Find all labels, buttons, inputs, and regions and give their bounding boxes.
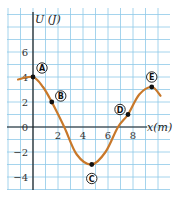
y-tick-label: 0 xyxy=(22,122,28,133)
tick-labels: 24686420−2−4 xyxy=(13,47,136,183)
y-tick-label: −4 xyxy=(13,172,28,183)
x-tick-label: 2 xyxy=(55,130,61,141)
point-b xyxy=(49,100,54,105)
grid xyxy=(7,8,170,190)
x-tick-label: 6 xyxy=(105,130,111,141)
y-tick-label: 6 xyxy=(22,47,28,58)
point-label-e: E xyxy=(149,73,154,82)
y-tick-label: 2 xyxy=(22,97,28,108)
point-label-d: D xyxy=(117,106,124,115)
point-label-a: A xyxy=(39,64,46,73)
axes xyxy=(7,12,147,190)
point-a xyxy=(31,75,36,80)
point-label-c: C xyxy=(89,175,95,184)
x-axis-label: x(m) xyxy=(147,121,172,134)
point-e xyxy=(149,85,154,90)
y-axis-label: U (J) xyxy=(35,13,61,26)
x-tick-label: 8 xyxy=(130,130,136,141)
y-tick-label: −2 xyxy=(13,147,28,158)
potential-energy-chart: 24686420−2−4 ABCDE U (J) x(m) xyxy=(0,0,177,198)
point-c xyxy=(89,162,94,167)
point-label-b: B xyxy=(58,92,64,101)
point-d xyxy=(126,112,131,117)
data-points: ABCDE xyxy=(31,63,157,184)
x-tick-label: 4 xyxy=(80,130,86,141)
